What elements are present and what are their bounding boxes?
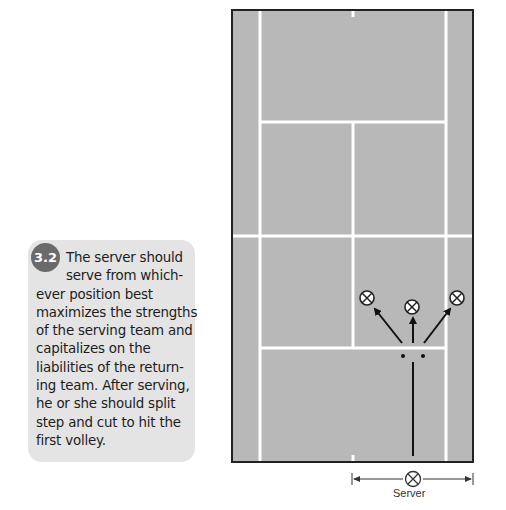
split-step-dot-right (421, 354, 425, 358)
tennis-court-diagram (0, 0, 506, 510)
server-marker-icon (406, 472, 421, 487)
player-marker-icon (450, 291, 464, 305)
player-marker-icon (360, 291, 374, 305)
player-marker-icon (405, 300, 419, 314)
server-label: Server (393, 487, 425, 499)
split-step-dot-left (401, 354, 405, 358)
